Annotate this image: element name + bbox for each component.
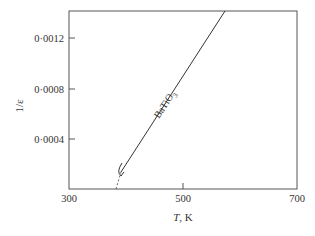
y-tick-label: 0·0008: [34, 84, 64, 95]
chart: 0·0012 0·0008 0·0004 1/ε 300 500 700 T, …: [0, 0, 315, 236]
y-tick-label: 0·0004: [34, 134, 64, 145]
plot-area-frame: [69, 11, 297, 189]
x-tick-label: 700: [289, 193, 305, 204]
batio3-curve-label: BaTiO3: [151, 88, 180, 122]
x-axis-label-unit: , K: [179, 211, 193, 223]
batio3-line: [121, 11, 225, 172]
y-tick-label: 0·0012: [34, 33, 64, 44]
y-axis-label: 1/ε: [13, 99, 25, 113]
x-tick-label: 300: [61, 193, 77, 204]
series-batio3: BaTiO3: [116, 11, 225, 189]
y-axis: 0·0012 0·0008 0·0004 1/ε: [13, 33, 75, 145]
x-tick-label: 500: [175, 193, 191, 204]
x-axis-label: T, K: [173, 211, 193, 223]
